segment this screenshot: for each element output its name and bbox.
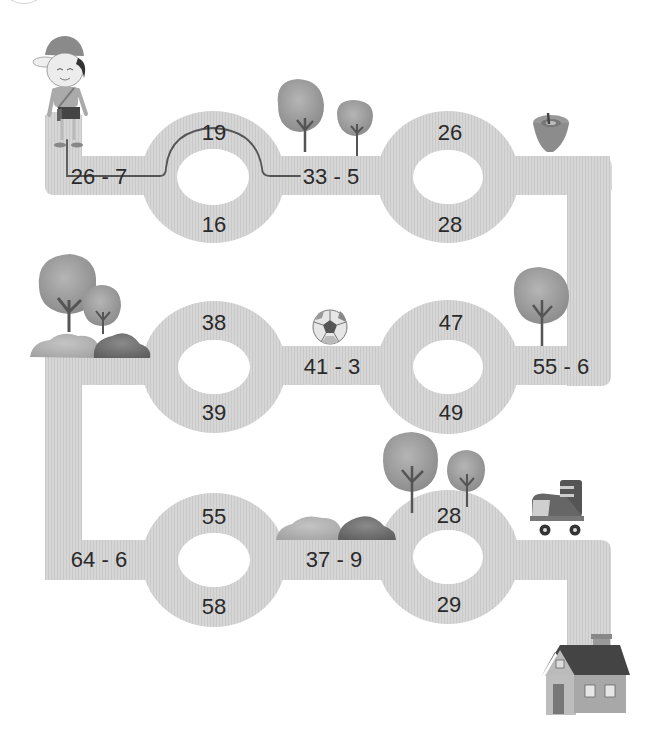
problem-label-6: 37 - 9 [306,549,362,571]
ring-5-top-choice[interactable]: 55 [202,506,226,528]
ring-1-bottom-choice[interactable]: 16 [202,214,226,236]
ring-4-bottom-choice[interactable]: 39 [202,402,226,424]
problem-label-1: 26 - 7 [71,166,127,188]
ring-6-bottom-choice[interactable]: 29 [437,594,461,616]
trees-and-bushes-icon [30,254,150,358]
roller-skate-icon [530,480,584,536]
problem-label-4: 41 - 3 [304,356,360,378]
ring-6-top-choice[interactable]: 28 [437,505,461,527]
ring-3-bottom-choice[interactable]: 49 [439,402,463,424]
problem-label-2: 33 - 5 [303,166,359,188]
bushes-icon [276,516,396,540]
maze-board: 26 - 7 33 - 5 55 - 6 41 - 3 64 - 6 37 - … [0,0,659,745]
problem-label-5: 64 - 6 [71,549,127,571]
ring-5-bottom-choice[interactable]: 58 [202,596,226,618]
ring-2-bottom-choice[interactable]: 28 [438,214,462,236]
ring-3-top-choice[interactable]: 47 [439,312,463,334]
tree-icon [337,100,373,156]
problem-label-3: 55 - 6 [533,356,589,378]
soccer-ball-icon [313,310,347,344]
spinning-top-icon [533,113,569,152]
ring-1-top-choice[interactable]: 19 [202,122,226,144]
ring-4-top-choice[interactable]: 38 [202,312,226,334]
ring-2-top-choice[interactable]: 26 [438,122,462,144]
tree-icon [278,79,324,152]
